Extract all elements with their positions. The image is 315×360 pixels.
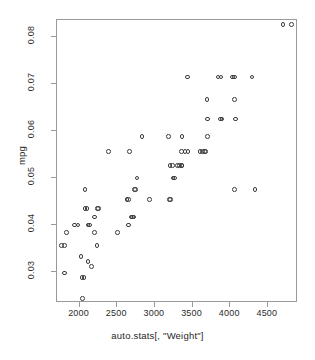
x-axis-tick-label: 2000 bbox=[59, 308, 99, 318]
data-point bbox=[250, 75, 255, 80]
data-point bbox=[232, 97, 237, 102]
data-point bbox=[147, 197, 152, 202]
data-point bbox=[140, 134, 145, 139]
data-point bbox=[64, 230, 69, 235]
data-point bbox=[95, 243, 100, 248]
x-axis-tick bbox=[192, 302, 193, 307]
x-axis-tick-label: 4500 bbox=[247, 308, 287, 318]
x-axis-tick bbox=[116, 302, 117, 307]
data-point bbox=[115, 230, 120, 235]
data-point bbox=[289, 22, 294, 27]
data-point bbox=[205, 117, 210, 122]
scatter-plot-figure: auto.stats[, "Weight"] mpg 2000250030003… bbox=[0, 0, 315, 360]
y-axis-tick-label: 0.08 bbox=[26, 18, 36, 52]
y-axis-tick bbox=[51, 177, 56, 178]
data-point bbox=[232, 75, 237, 80]
data-point bbox=[186, 149, 191, 154]
data-point bbox=[82, 275, 87, 280]
x-axis-label: auto.stats[, "Weight"] bbox=[0, 330, 315, 341]
y-axis-tick bbox=[51, 224, 56, 225]
x-axis-tick bbox=[229, 302, 230, 307]
data-point bbox=[170, 163, 175, 168]
data-point bbox=[80, 296, 85, 301]
x-axis-tick bbox=[79, 302, 80, 307]
y-axis-tick bbox=[51, 36, 56, 37]
data-point bbox=[233, 117, 238, 122]
y-axis-tick-label: 0.06 bbox=[26, 112, 36, 146]
y-axis-tick bbox=[51, 130, 56, 131]
x-axis-tick-label: 2500 bbox=[96, 308, 136, 318]
x-axis-tick bbox=[267, 302, 268, 307]
data-point bbox=[127, 149, 132, 154]
x-axis-tick-label: 3000 bbox=[134, 308, 174, 318]
y-axis-tick bbox=[51, 83, 56, 84]
data-point bbox=[253, 187, 258, 192]
y-axis-tick-label: 0.03 bbox=[26, 253, 36, 287]
data-point bbox=[89, 264, 94, 269]
data-point bbox=[62, 271, 67, 276]
y-axis-tick-label: 0.05 bbox=[26, 159, 36, 193]
data-point bbox=[126, 197, 131, 202]
data-point bbox=[87, 223, 92, 228]
data-point bbox=[76, 223, 81, 228]
y-axis-tick bbox=[51, 271, 56, 272]
data-point bbox=[205, 97, 210, 102]
data-point bbox=[180, 134, 185, 139]
x-axis-tick-label: 4000 bbox=[209, 308, 249, 318]
data-point bbox=[168, 197, 173, 202]
data-point bbox=[180, 163, 185, 168]
data-point bbox=[92, 230, 97, 235]
data-point bbox=[132, 215, 137, 220]
data-point bbox=[135, 176, 140, 181]
data-point bbox=[205, 134, 210, 139]
data-point bbox=[219, 75, 224, 80]
data-point bbox=[83, 187, 88, 192]
data-point bbox=[106, 149, 111, 154]
data-point bbox=[96, 206, 101, 211]
data-point bbox=[220, 117, 225, 122]
data-point bbox=[79, 254, 84, 259]
y-axis-tick-label: 0.07 bbox=[26, 65, 36, 99]
data-point bbox=[232, 187, 237, 192]
plot-frame bbox=[56, 19, 297, 302]
data-points-layer bbox=[57, 20, 296, 301]
data-point bbox=[203, 149, 208, 154]
x-axis-tick bbox=[154, 302, 155, 307]
data-point bbox=[133, 187, 138, 192]
data-point bbox=[85, 206, 90, 211]
data-point bbox=[92, 215, 97, 220]
data-point bbox=[126, 223, 131, 228]
data-point bbox=[172, 176, 177, 181]
data-point bbox=[86, 259, 91, 264]
y-axis-tick-label: 0.04 bbox=[26, 206, 36, 240]
data-point bbox=[281, 22, 286, 27]
x-axis-tick-label: 3500 bbox=[172, 308, 212, 318]
data-point bbox=[185, 75, 190, 80]
data-point bbox=[62, 243, 67, 248]
data-point bbox=[166, 134, 171, 139]
